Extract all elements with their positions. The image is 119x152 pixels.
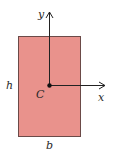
rectangle-section-diagram: y x C h b xyxy=(0,0,119,152)
height-label: h xyxy=(6,79,13,92)
width-label: b xyxy=(46,139,53,152)
centroid-dot xyxy=(47,83,51,87)
x-axis-label: x xyxy=(98,91,105,104)
centroid-label: C xyxy=(36,88,45,101)
y-axis-label: y xyxy=(37,8,45,21)
